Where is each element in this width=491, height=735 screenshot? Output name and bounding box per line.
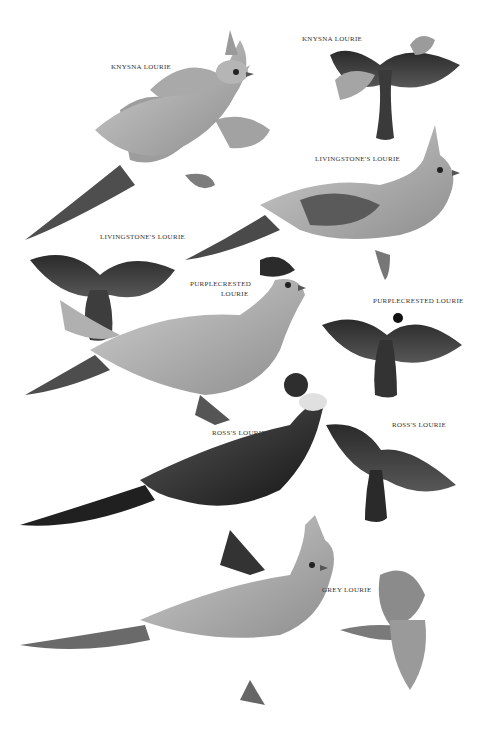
illustration-plate: KNYSNA LOURIE KNYSNA LOURIE LIVINGSTONE'… [0,0,491,735]
caption-ross-lourie-perched: ROSS'S LOURIE [212,429,266,438]
caption-purplecrested-lourie-perched-line1: PURPLECRESTED [190,280,251,289]
caption-knysna-lourie-perched: KNYSNA LOURIE [111,63,171,72]
caption-purplecrested-lourie-perched-line2: LOURIE [221,290,248,299]
purplecrested-lourie-flight [322,313,462,398]
livingstones-lourie-perched [185,125,460,280]
ross-lourie-perched [20,373,327,575]
caption-purplecrested-lourie-flight: PURPLECRESTED LOURIE [373,297,464,306]
caption-grey-lourie: GREY LOURIE [322,586,372,595]
ross-lourie-flight [326,424,456,522]
caption-ross-lourie-flight: ROSS'S LOURIE [392,421,446,430]
bird-illustrations [0,0,491,735]
grey-lourie-perched [20,515,334,705]
knysna-lourie-perched [25,30,270,240]
caption-livingstones-lourie-flight: LIVINGSTONE'S LOURIE [100,233,185,242]
caption-livingstones-lourie-perched: LIVINGSTONE'S LOURIE [315,155,400,164]
knysna-lourie-flight [330,36,460,140]
caption-knysna-lourie-flight: KNYSNA LOURIE [302,35,362,44]
